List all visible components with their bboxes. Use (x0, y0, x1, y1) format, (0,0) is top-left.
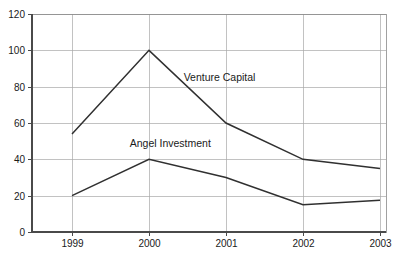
y-axis-tick-label: 120 (8, 9, 25, 20)
y-axis-tick-label: 20 (14, 191, 26, 202)
y-axis-tick-label: 40 (14, 154, 26, 165)
line-chart: 020406080100120 19992000200120022003 Ven… (0, 0, 398, 260)
chart-background (0, 0, 398, 260)
chart-canvas: 020406080100120 19992000200120022003 Ven… (0, 0, 398, 260)
x-axis-tick-label: 2002 (292, 238, 315, 249)
x-axis-tick-label: 2000 (138, 238, 161, 249)
y-axis-tick-label: 80 (14, 82, 26, 93)
y-axis-tick-label: 0 (19, 227, 25, 238)
y-axis-tick-label: 100 (8, 45, 25, 56)
series-label-angel-investment: Angel Investment (130, 137, 211, 149)
y-axis-tick-label: 60 (14, 118, 26, 129)
x-axis-tick-label: 2003 (369, 238, 392, 249)
series-label-venture-capital: Venture Capital (184, 71, 256, 83)
x-axis-tick-label: 1999 (61, 238, 84, 249)
x-axis-tick-label: 2001 (215, 238, 238, 249)
